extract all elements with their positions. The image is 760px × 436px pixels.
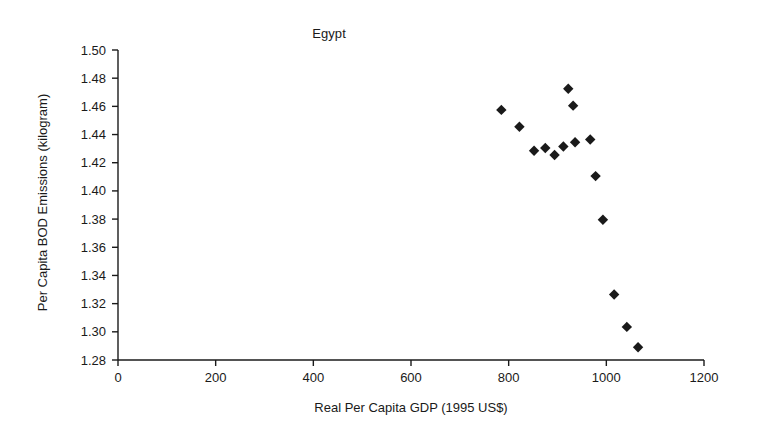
y-tick-label: 1.40 <box>81 183 106 198</box>
y-tick-label: 1.38 <box>81 212 106 227</box>
data-point <box>563 84 573 94</box>
y-tick-group: 1.281.301.321.341.361.381.401.421.441.46… <box>81 43 118 368</box>
scatter-chart: Egypt Per Capita BOD Emissions (kilogram… <box>0 0 760 436</box>
data-point <box>622 322 632 332</box>
x-tick-label: 800 <box>498 370 520 385</box>
data-point <box>514 122 524 132</box>
y-tick-label: 1.36 <box>81 240 106 255</box>
data-point <box>529 146 539 156</box>
axes <box>118 50 704 360</box>
data-point <box>598 215 608 225</box>
y-tick-label: 1.44 <box>81 127 106 142</box>
y-tick-label: 1.30 <box>81 324 106 339</box>
data-point <box>633 342 643 352</box>
data-point <box>496 105 506 115</box>
data-point <box>570 137 580 147</box>
x-tick-label: 1000 <box>592 370 621 385</box>
data-point-group <box>496 84 643 353</box>
y-tick-label: 1.42 <box>81 155 106 170</box>
y-tick-label: 1.48 <box>81 71 106 86</box>
x-tick-group: 020040060080010001200 <box>114 360 718 385</box>
x-tick-label: 600 <box>400 370 422 385</box>
y-tick-label: 1.32 <box>81 296 106 311</box>
plot-area: 1.281.301.321.341.361.381.401.421.441.46… <box>0 0 760 436</box>
data-point <box>585 134 595 144</box>
y-tick-label: 1.28 <box>81 353 106 368</box>
y-tick-label: 1.46 <box>81 99 106 114</box>
x-tick-label: 200 <box>205 370 227 385</box>
x-tick-label: 400 <box>302 370 324 385</box>
data-point <box>568 100 578 110</box>
y-tick-label: 1.50 <box>81 43 106 58</box>
x-tick-label: 1200 <box>690 370 719 385</box>
data-point <box>590 171 600 181</box>
x-tick-label: 0 <box>114 370 121 385</box>
data-point <box>549 150 559 160</box>
data-point <box>540 143 550 153</box>
data-point <box>609 289 619 299</box>
data-point <box>558 141 568 151</box>
y-tick-label: 1.34 <box>81 268 106 283</box>
